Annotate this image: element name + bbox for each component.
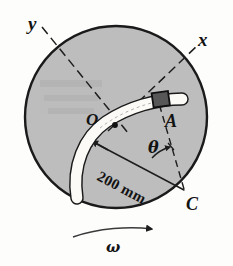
point-O-dot	[112, 122, 118, 128]
rotation-arrow-icon	[73, 228, 152, 237]
point-C-label: C	[186, 195, 198, 213]
angle-theta-label: θ	[148, 140, 159, 156]
axis-y-label: y	[28, 14, 36, 33]
axis-x-label: x	[198, 30, 208, 49]
angular-velocity-label: ω	[106, 240, 120, 255]
disk-texture	[40, 80, 102, 114]
slider-block-A	[152, 91, 170, 108]
point-O-label: O	[86, 111, 98, 128]
point-A-label: A	[165, 112, 177, 130]
mechanics-figure: y x O A C θ ω 200 mm	[0, 0, 233, 266]
